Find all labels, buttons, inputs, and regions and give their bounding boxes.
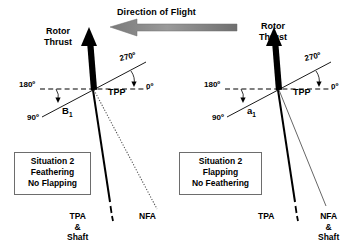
right-tpa-axis xyxy=(278,90,298,221)
right-flapping-angle-symbol: a1 xyxy=(247,106,256,118)
right-upper-angle-indicator xyxy=(316,71,322,87)
left-rotor-thrust-arrow xyxy=(81,27,97,90)
left-nfa-label: NFA xyxy=(139,211,156,222)
left-angle-90-label: 90º xyxy=(27,114,39,123)
right-situation-box: Situation 2 Flapping No Feathering xyxy=(179,152,262,195)
right-angle-symbol-subscript: 1 xyxy=(252,111,256,118)
left-nfa-axis xyxy=(94,90,157,209)
right-angle-180-label: 180º xyxy=(204,81,220,90)
left-angle-symbol-letter: B xyxy=(62,105,69,116)
left-lower-angle-indicator xyxy=(55,89,60,103)
rotor-diagram-figure: Direction of Flight Rotor Thrust 270º 0º… xyxy=(0,0,352,251)
left-tpp-label: TPP xyxy=(108,87,126,97)
right-angle-0-label: 0º xyxy=(331,83,338,92)
right-nfa-shaft-label: NFA & Shaft xyxy=(318,211,339,243)
right-tpp-label: TPP xyxy=(293,87,311,97)
left-tpa-shaft-axis xyxy=(93,90,113,221)
left-angle-symbol-subscript: 1 xyxy=(69,111,73,118)
right-rotor-thrust-label: Rotor Thrust xyxy=(259,21,287,43)
direction-of-flight-label: Direction of Flight xyxy=(117,7,196,17)
right-tpa-label: TPA xyxy=(258,211,274,222)
left-angle-180-label: 180º xyxy=(19,81,35,90)
left-angle-0-label: 0º xyxy=(146,83,153,92)
left-upper-angle-indicator xyxy=(131,71,137,87)
left-feathering-angle-symbol: B1 xyxy=(62,106,73,118)
direction-of-flight-arrow xyxy=(110,19,237,36)
right-lower-angle-indicator xyxy=(240,89,245,103)
left-situation-box: Situation 2 Feathering No Flapping xyxy=(14,152,91,195)
right-angle-90-label: 90º xyxy=(212,114,224,123)
left-rotor-thrust-label: Rotor Thrust xyxy=(44,26,72,48)
left-tpa-shaft-label: TPA & Shaft xyxy=(67,211,88,243)
